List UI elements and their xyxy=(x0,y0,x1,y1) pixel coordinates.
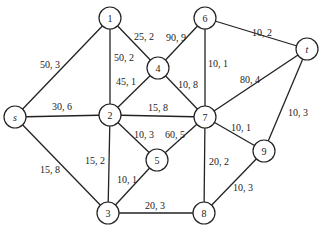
edge-s-2 xyxy=(15,115,110,117)
node-2: 2 xyxy=(99,104,121,126)
node-6: 6 xyxy=(194,7,216,29)
edge-label-s-3: 15, 8 xyxy=(40,164,60,175)
node-label: 2 xyxy=(108,110,113,121)
edge-label-4-7: 10, 8 xyxy=(178,79,198,90)
node-9: 9 xyxy=(253,140,275,162)
edge-label-7-8: 20, 2 xyxy=(209,156,229,167)
edge-label-1-2: 50, 2 xyxy=(114,52,134,63)
node-5: 5 xyxy=(146,149,168,171)
edge-label-7-9: 10, 1 xyxy=(231,122,251,133)
node-4: 4 xyxy=(147,57,169,79)
node-label: 1 xyxy=(108,13,113,24)
edge-label-2-4: 45, 1 xyxy=(116,76,136,87)
node-8: 8 xyxy=(193,202,215,224)
node-s: s xyxy=(4,106,26,128)
edge-label-2-3: 15, 2 xyxy=(85,155,105,166)
edge-label-s-2: 30, 6 xyxy=(52,101,72,112)
edge-label-3-8: 20, 3 xyxy=(145,200,165,211)
node-3: 3 xyxy=(97,202,119,224)
edge-2-3 xyxy=(108,115,110,213)
edge-label-7-t: 80, 4 xyxy=(240,74,260,85)
node-label: s xyxy=(13,112,17,123)
edge-label-2-7: 15, 8 xyxy=(148,102,168,113)
node-1: 1 xyxy=(99,7,121,29)
edge-label-9-8: 10, 3 xyxy=(233,182,253,193)
edge-labels-layer: 50, 330, 615, 850, 225, 245, 115, 810, 3… xyxy=(40,27,308,211)
edge-label-4-6: 90, 9 xyxy=(166,32,186,43)
edge-label-1-4: 25, 2 xyxy=(134,31,154,42)
edge-2-7 xyxy=(110,115,205,117)
edge-7-8 xyxy=(204,117,205,213)
edge-label-6-7: 10, 1 xyxy=(208,58,228,69)
node-label: 4 xyxy=(156,63,161,74)
edge-label-3-5: 10, 1 xyxy=(117,174,137,185)
edge-label-5-7: 60, 5 xyxy=(165,129,185,140)
node-label: 6 xyxy=(203,13,208,24)
node-label: 5 xyxy=(155,155,160,166)
node-label: t xyxy=(306,44,309,55)
edge-label-s-1: 50, 3 xyxy=(40,59,60,70)
node-label: 8 xyxy=(202,208,207,219)
node-t: t xyxy=(296,38,318,60)
edge-9-t xyxy=(264,49,307,151)
node-label: 7 xyxy=(203,112,208,123)
edges-layer xyxy=(15,18,307,213)
edge-label-9-t: 10, 3 xyxy=(288,107,308,118)
edge-label-2-5: 10, 3 xyxy=(134,129,154,140)
node-label: 9 xyxy=(262,146,267,157)
edge-label-6-t: 10, 2 xyxy=(252,27,272,38)
node-7: 7 xyxy=(194,106,216,128)
network-diagram: 50, 330, 615, 850, 225, 245, 115, 810, 3… xyxy=(0,0,320,230)
node-label: 3 xyxy=(106,208,111,219)
